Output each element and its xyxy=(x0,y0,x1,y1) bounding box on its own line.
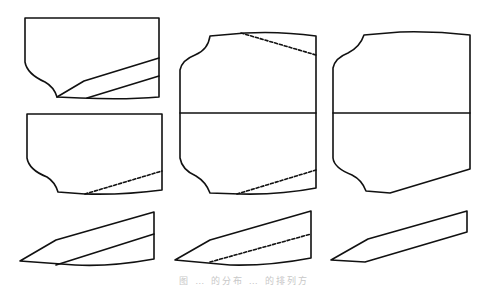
figure-caption: 图 … 的分布 … 的排列方 xyxy=(0,274,488,287)
panel-col1-bottom xyxy=(20,212,154,265)
panel-col3-tall xyxy=(333,32,470,193)
panel-col2-tall xyxy=(180,32,316,194)
panel-col3-bottom xyxy=(331,211,467,262)
panel-col2-bottom xyxy=(175,211,311,265)
panel-col1-mid xyxy=(27,114,162,194)
figure-diagram xyxy=(0,0,488,289)
panel-col1-top xyxy=(25,18,159,99)
